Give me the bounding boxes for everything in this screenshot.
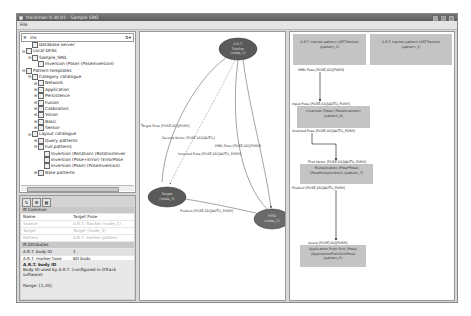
svg-text:A.R.T.: A.R.T. [233,42,243,46]
property-value[interactable]: Target Pose [73,214,134,220]
filter-icon[interactable]: ⇅▾ [125,35,131,40]
tree-node-icon [38,112,44,118]
property-row[interactable]: A.R.T. body ID1 [21,249,134,256]
edge-hmd-pose [235,60,268,210]
tree-node-icon [26,48,32,54]
window-title: trackman 0.30.01 - Sample SRG [26,15,98,20]
svg-text:First factor [POSE,6D][AUTO_P: First factor [POSE,6D][AUTO_PUSH] [308,160,366,164]
tree-item-label: Fusion [45,100,59,105]
tree-node-icon [38,61,44,67]
tree-node-icon [38,93,44,99]
property-value: Target (node_3) [73,228,134,234]
tree-item-label: Inversion (Pose) (PoseInversion) [51,164,120,169]
label-product: Product [POSE,6D][AUTO_PUSH] [180,209,233,213]
tree-item-label: Calibration [45,106,68,111]
tree-item-label: Database server [39,42,74,47]
edge-second-factor [170,60,235,184]
tree-item-label: Full patterns [45,144,72,149]
tree-node-icon [32,74,38,80]
dataflow-panel[interactable]: A.R.T. tracker pattern (ARTTracker) (pat… [289,31,455,301]
svg-text:(node_1): (node_1) [230,51,246,55]
tree-item-label: Layout catalogue [39,132,76,137]
svg-text:HMD Pose [POSE,6D][PUSH]: HMD Pose [POSE,6D][PUSH] [298,68,344,72]
search-field[interactable]: ✕ inv ⇅▾ [21,33,134,42]
property-row[interactable]: SourceA.R.T. Tracker (node_1) [21,221,134,228]
tree-node-icon [38,119,44,125]
label-target-pose: Target Pose [POSE,6D][PUSH] [140,124,190,128]
tree-item-label: Network [45,81,63,86]
tree-item-label: Pattern templates [33,68,71,73]
label-inverted-pose: Inverted Pose [POSE,6D][AUTO_PUSH] [178,152,241,156]
tree-item-label: Sample_SRG [39,55,66,60]
property-value: A.R.T. Tracker (node_1) [73,221,134,227]
property-key: Pattern [21,235,73,241]
description-range: Range: [1,20] [23,283,132,288]
property-key: ⊟ Attributes [21,242,73,248]
property-row[interactable]: NameTarget Pose [21,214,134,221]
search-input[interactable]: inv [30,35,37,40]
svg-text:(node_2): (node_2) [264,219,280,223]
sort-icon[interactable]: ⇅ [22,198,31,207]
property-category[interactable]: ⊟ Attributes [21,242,134,249]
tree-node-icon [32,55,38,61]
tree-node-icon [38,100,44,106]
svg-text:Product [POSE,6D][AUTO_PUSH]: Product [POSE,6D][AUTO_PUSH] [292,186,345,190]
tree-node-icon [32,42,38,48]
property-description: A.R.T. body ID Body ID used by A.R.T. (c… [21,260,134,299]
main-window: trackman 0.30.01 - Sample SRG _ □ × File… [16,13,458,303]
svg-text:HMD: HMD [268,214,277,218]
description-text: Body ID used by A.R.T. (configured in DT… [23,267,132,277]
svg-text:(node_3): (node_3) [159,197,175,201]
left-pane: ✕ inv ⇅▾ Database server⊟Local DFGs⊟Samp… [19,31,136,301]
property-table: ⊟ CommonNameTarget PoseSourceA.R.T. Trac… [21,207,134,263]
horizontal-scrollbar[interactable] [21,185,134,191]
label-hmd-pose: HMD Pose [POSE,6D][PUSH] [215,144,261,148]
menu-file[interactable]: File [20,22,28,27]
property-row[interactable]: TargetTarget (node_3) [21,228,134,235]
svg-text:Target: Target [161,192,173,196]
property-row[interactable]: PatternA.R.T. marker pattern [21,235,134,242]
tree-item-label: Local DFGs [33,49,57,54]
tree-node-icon [38,106,44,112]
tree-node-icon [44,163,50,169]
clear-search-icon[interactable]: ✕ [23,35,27,40]
pattern-tree: Database server⊟Local DFGs⊟Sample_SRGInv… [22,42,133,176]
tree-node-icon [38,138,44,144]
pattern-tree-panel: ✕ inv ⇅▾ Database server⊟Local DFGs⊟Samp… [19,31,136,193]
tree-item-label: Inversion (Pose) (PoseInversion) [45,61,114,66]
property-value: A.R.T. marker pattern [73,235,134,241]
tree-item-label: Persistence [45,93,70,98]
scrollbar-thumb[interactable] [27,187,119,192]
tree-node-icon [38,87,44,93]
tree-item-label: Category catalogue [39,74,81,79]
property-key: A.R.T. body ID [21,249,73,255]
property-value[interactable]: 1 [73,249,134,255]
property-category[interactable]: ⊟ Common [21,207,134,214]
tree-item-label: Query patterns [45,138,77,143]
tree-item[interactable]: ⊞Base patterns [22,170,133,176]
grid-icon[interactable]: ▦ [42,198,51,207]
tree-node-icon [44,157,50,163]
tree-node-icon [38,125,44,131]
tree-node-icon [38,170,44,176]
label-second-factor: Second factor [POSE,6D][AUTO] [162,136,215,140]
tree-item-label: Sensor [45,125,60,130]
srg-graph-panel[interactable]: A.R.T. Tracker (node_1) Target (node_3) … [139,31,286,301]
svg-text:Inverted Pose [POSE,6D][AUTO_: Inverted Pose [POSE,6D][AUTO_PUSH] [292,129,355,133]
edge-target-pose [162,54,232,182]
tree-node-icon [32,131,38,137]
category-icon[interactable]: ☰ [32,198,41,207]
tree-item-label: Inversion (Rotation) (RotationInver [51,151,125,156]
svg-text:Query [POSE,6D][PUSH]: Query [POSE,6D][PUSH] [308,241,348,245]
svg-text:Tracker: Tracker [231,47,245,51]
tree-item-label: Inversion (Pose+Error) (ErrorPose [51,157,123,162]
title-bar: trackman 0.30.01 - Sample SRG _ □ × [17,14,457,21]
svg-text:Input Pose [POSE,6D][AUTO_PUS: Input Pose [POSE,6D][AUTO_PUSH] [292,102,350,106]
tree-node-icon [26,68,32,74]
property-value [73,242,134,248]
tree-item-label: Basic [45,119,56,124]
property-key: Name [21,214,73,220]
property-sheet: ⇅ ☰ ▦ ⊟ CommonNameTarget PoseSourceA.R.T… [19,195,136,301]
tree-node-icon [38,80,44,86]
tree-item-label: Vision [45,112,58,117]
